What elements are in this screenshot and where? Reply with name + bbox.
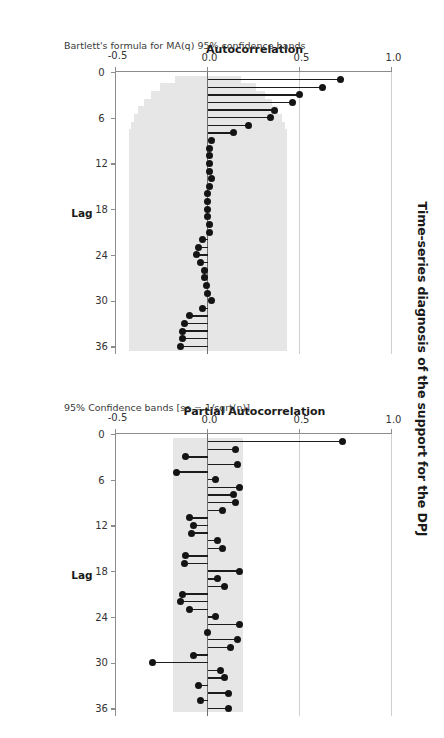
data-point <box>236 568 243 575</box>
data-point <box>190 522 197 529</box>
stem-line <box>177 471 208 472</box>
data-point <box>219 545 226 552</box>
x-axis-tick-mark <box>111 118 116 119</box>
x-axis-tick-mark <box>111 301 116 302</box>
data-point <box>206 168 213 175</box>
data-point <box>179 591 186 598</box>
data-point <box>206 229 213 236</box>
data-point <box>232 446 239 453</box>
gridline-y <box>299 434 300 716</box>
data-point <box>188 530 195 537</box>
x-axis-tick-mark <box>111 163 116 164</box>
y-axis-line <box>116 71 392 72</box>
stem-line <box>180 346 208 347</box>
stem-line <box>184 563 208 564</box>
x-axis-tick-label: 12 <box>96 512 107 538</box>
gridline-y <box>391 72 392 354</box>
data-point <box>203 282 210 289</box>
data-point <box>173 469 180 476</box>
x-axis-tick-mark <box>111 525 116 526</box>
data-point <box>271 107 278 114</box>
y-axis-tick-mark <box>391 67 392 72</box>
stem-line <box>208 102 293 103</box>
x-axis-tick-label: 0 <box>96 59 107 85</box>
stem-line <box>182 330 208 331</box>
x-axis-tick-mark <box>111 708 116 709</box>
x-axis-tick-label: 6 <box>96 105 107 131</box>
stem-line <box>208 487 239 488</box>
stem-line <box>208 109 274 110</box>
x-axis-tick-label: 36 <box>96 695 107 721</box>
x-axis-tick-label: 30 <box>96 288 107 314</box>
y-axis-tick-mark <box>299 429 300 434</box>
data-point <box>225 705 232 712</box>
data-point <box>289 99 296 106</box>
panel-note: Bartlett's formula for MA(q) 95% confide… <box>64 40 305 51</box>
y-axis-tick-mark <box>207 67 208 72</box>
stem-line <box>208 117 271 118</box>
data-point <box>236 484 243 491</box>
panel-pacf: 1.00.50.0-0.5Partial Autocorrelation0612… <box>40 378 400 730</box>
data-point <box>177 343 184 350</box>
data-point <box>190 652 197 659</box>
y-axis-tick-label: 1.0 <box>388 396 399 428</box>
x-axis-tick-mark <box>111 346 116 347</box>
x-axis-tick-mark <box>111 72 116 73</box>
y-axis-tick-mark <box>391 429 392 434</box>
x-axis-tick-label: 24 <box>96 242 107 268</box>
data-point <box>201 267 208 274</box>
data-point <box>319 84 326 91</box>
stem-line <box>208 87 322 88</box>
x-axis-tick-mark <box>111 617 116 618</box>
x-axis-tick-mark <box>111 480 116 481</box>
data-point <box>214 537 221 544</box>
gridline-y <box>391 434 392 716</box>
data-point <box>179 328 186 335</box>
x-axis-tick-mark <box>111 663 116 664</box>
data-point <box>149 659 156 666</box>
x-axis-tick-mark <box>111 434 116 435</box>
x-axis-tick-label: 6 <box>96 467 107 493</box>
gridline-y <box>299 72 300 354</box>
data-point <box>225 690 232 697</box>
data-point <box>186 606 193 613</box>
data-point <box>236 621 243 628</box>
data-point <box>219 507 226 514</box>
data-point <box>245 122 252 129</box>
data-point <box>339 438 346 445</box>
x-axis-title: Lag <box>0 569 223 581</box>
data-point <box>221 583 228 590</box>
data-point <box>179 335 186 342</box>
y-axis-tick-mark <box>299 67 300 72</box>
stem-line <box>186 456 208 457</box>
x-axis-tick-label: 36 <box>96 333 107 359</box>
data-point <box>181 320 188 327</box>
stem-line <box>208 441 342 442</box>
stem-line <box>180 601 208 602</box>
panel-note: 95% Confidence bands [se = 1/sqrt(n)] <box>64 402 250 413</box>
page-title: Time-series diagnosis of the support for… <box>415 0 430 738</box>
stem-line <box>208 79 340 80</box>
panel-acf: 1.00.50.0-0.5Autocorrelation061218243036… <box>40 16 400 368</box>
y-axis-line <box>116 433 392 434</box>
data-point <box>181 560 188 567</box>
stem-line <box>208 94 300 95</box>
data-point <box>199 305 206 312</box>
data-point <box>297 91 304 98</box>
data-point <box>337 76 344 83</box>
data-point <box>227 644 234 651</box>
stem-line <box>186 555 208 556</box>
x-axis-title: Lag <box>0 207 223 219</box>
stem-line <box>208 624 239 625</box>
figure-canvas: Time-series diagnosis of the support for… <box>0 0 444 738</box>
x-axis-tick-label: 30 <box>96 650 107 676</box>
data-point <box>234 461 241 468</box>
stem-line <box>184 323 208 324</box>
stem-line <box>182 338 208 339</box>
y-axis-tick-label: 1.0 <box>388 34 399 66</box>
y-axis-tick-mark <box>207 429 208 434</box>
stem-line <box>208 125 248 126</box>
x-axis-tick-label: 24 <box>96 604 107 630</box>
stem-line <box>153 662 208 663</box>
x-axis-tick-label: 12 <box>96 150 107 176</box>
